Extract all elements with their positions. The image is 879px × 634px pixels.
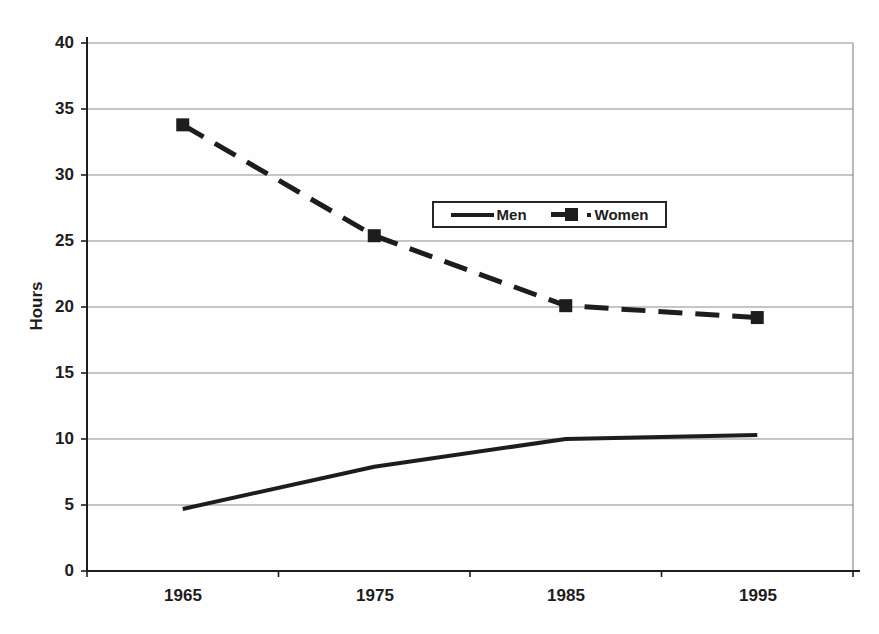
- x-tick-label-1975: 1975: [325, 586, 425, 606]
- women-marker: [176, 118, 189, 131]
- women-line-swatch: [551, 208, 591, 221]
- legend-label-women: Women: [595, 206, 649, 223]
- women-marker: [559, 299, 572, 312]
- x-tick-label-1985: 1985: [516, 586, 616, 606]
- men-line-swatch: [451, 213, 494, 217]
- y-tick-label: 10: [0, 428, 74, 450]
- y-tick-label: 0: [0, 560, 74, 582]
- legend-label-men: Men: [497, 206, 527, 223]
- line-chart-figure: 40 35 30 25 20 15 10 5 0 1965 1975 1985 …: [0, 0, 879, 634]
- legend-box: Men Women: [432, 201, 667, 228]
- y-tick-label: 15: [0, 362, 74, 384]
- women-marker: [751, 311, 764, 324]
- y-tick-label: 35: [0, 98, 74, 120]
- x-tick-label-1995: 1995: [708, 586, 808, 606]
- women-dash-icon: [551, 212, 565, 217]
- y-tick-label: 30: [0, 164, 74, 186]
- men-line: [183, 435, 758, 509]
- y-tick-label: 40: [0, 32, 74, 54]
- women-dot-icon: [587, 213, 591, 217]
- y-tick-label: 5: [0, 494, 74, 516]
- women-square-marker-icon: [565, 208, 578, 221]
- plot-canvas: [0, 0, 879, 634]
- y-tick-label: 25: [0, 230, 74, 252]
- y-axis-title: Hours: [26, 256, 48, 356]
- x-tick-label-1965: 1965: [133, 586, 233, 606]
- women-marker: [368, 229, 381, 242]
